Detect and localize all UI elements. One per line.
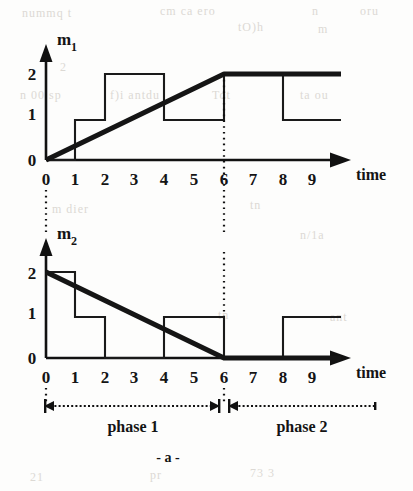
m2-xtick-8: 8 [279,368,288,387]
m1-xtick-9: 9 [308,170,317,189]
m1-y-axis-arrowhead [40,44,53,62]
m2-ytick-1: 1 [28,304,37,323]
m2-y-axis-arrowhead [40,238,53,256]
m1-xtick-5: 5 [190,170,199,189]
m1-ytick-0: 0 [28,151,37,170]
chart-m1: m 1 time 0 1 2 0 1 2 3 4 5 6 7 8 9 [28,30,386,189]
m2-xtick-7: 7 [249,368,258,387]
m1-xtick-4: 4 [160,170,169,189]
phase-bar: phase 1 phase 2 [44,399,376,436]
m1-axis-label-subscript: 1 [71,40,77,54]
m2-xtick-3: 3 [130,368,139,387]
m2-x-axis-label: time [356,364,386,381]
figure-caption: - a - [156,450,180,465]
phase-1-label: phase 1 [107,418,158,436]
m1-ramp-signal [46,74,341,160]
figure-container: nummq t cm ca ero n oru tO)h m 2 n 00 sp… [0,0,413,491]
phase-2-label: phase 2 [276,418,327,436]
m2-xtick-1: 1 [71,368,80,387]
m1-xtick-8: 8 [279,170,288,189]
figure-svg: m 1 time 0 1 2 0 1 2 3 4 5 6 7 8 9 [0,0,413,491]
m1-xtick-7: 7 [249,170,258,189]
m1-axis-label: m [57,30,71,49]
m2-xtick-2: 2 [101,368,110,387]
m1-ytick-1: 1 [28,105,37,124]
phase-1-right-tick [218,399,220,413]
phase-2-right-tick [374,402,376,410]
m2-xtick-6: 6 [220,368,229,387]
phase-1-left-tick [44,399,46,413]
m2-ramp-signal [46,272,341,358]
m2-axis-label: m [57,224,71,243]
m1-xtick-3: 3 [130,170,139,189]
phase-2-left-tick [228,399,230,413]
m2-ytick-0: 0 [28,349,37,368]
m1-x-axis-label: time [356,166,386,183]
m1-xtick-1: 1 [71,170,80,189]
m2-xtick-0: 0 [42,368,51,387]
m1-xtick-2: 2 [101,170,110,189]
chart-m2: m 2 time 0 1 2 0 1 2 3 4 5 6 7 8 9 [28,224,386,387]
m1-xtick-0: 0 [42,170,51,189]
m1-x-axis-arrowhead [330,153,351,168]
m2-xtick-4: 4 [160,368,169,387]
m2-ytick-2: 2 [28,264,37,283]
m2-xtick-9: 9 [308,368,317,387]
m2-axis-label-subscript: 2 [71,234,77,248]
m2-xtick-5: 5 [190,368,199,387]
m1-ytick-2: 2 [28,65,37,84]
